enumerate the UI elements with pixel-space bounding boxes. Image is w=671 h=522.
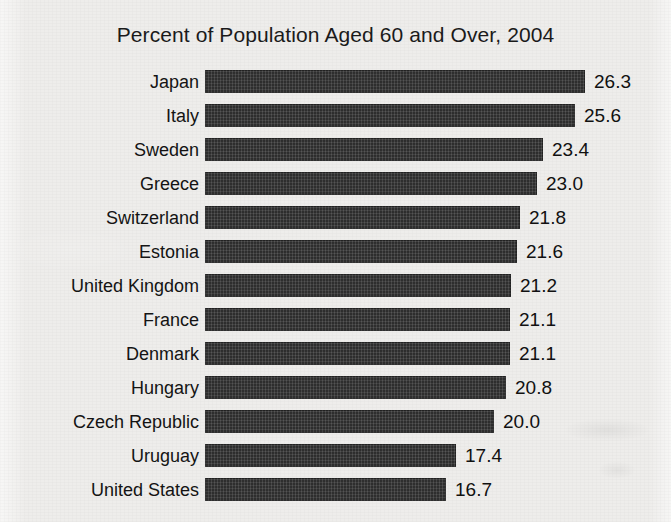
category-label: France: [143, 309, 199, 330]
bar: [205, 138, 543, 161]
bar-row: Switzerland21.8: [0, 206, 671, 229]
bar: [205, 172, 537, 195]
category-label: United Kingdom: [71, 275, 199, 296]
bar-row: Czech Republic20.0: [0, 410, 671, 433]
bar-value-label: 20.8: [515, 377, 552, 399]
bar: [205, 410, 494, 433]
chart-title: Percent of Population Aged 60 and Over, …: [0, 22, 671, 48]
bar-value-label: 25.6: [584, 105, 621, 127]
bar-value-label: 17.4: [465, 445, 502, 467]
bar-row: Greece23.0: [0, 172, 671, 195]
bar-row: Hungary20.8: [0, 376, 671, 399]
category-label: Hungary: [131, 377, 199, 398]
bar-fill: [205, 274, 511, 297]
bar-fill: [205, 342, 510, 365]
category-label: Japan: [150, 71, 199, 92]
bar-chart: Percent of Population Aged 60 and Over, …: [0, 0, 671, 522]
bar: [205, 308, 510, 331]
bar-value-label: 23.4: [552, 139, 589, 161]
bar-value-label: 23.0: [546, 173, 583, 195]
category-label: Greece: [140, 173, 199, 194]
bar-fill: [205, 138, 543, 161]
bar-value-label: 16.7: [455, 479, 492, 501]
bar-fill: [205, 240, 517, 263]
bar-row: United Kingdom21.2: [0, 274, 671, 297]
category-label: Switzerland: [106, 207, 199, 228]
bar-value-label: 26.3: [594, 71, 631, 93]
bar-value-label: 21.8: [529, 207, 566, 229]
bar-row: Japan26.3: [0, 70, 671, 93]
bar-row: Italy25.6: [0, 104, 671, 127]
category-label: United States: [91, 479, 199, 500]
category-label: Denmark: [126, 343, 199, 364]
bar-value-label: 20.0: [503, 411, 540, 433]
bar-fill: [205, 478, 446, 501]
category-label: Italy: [166, 105, 199, 126]
bar-value-label: 21.2: [520, 275, 557, 297]
bar-row: France21.1: [0, 308, 671, 331]
bar-fill: [205, 444, 456, 467]
bar-fill: [205, 376, 506, 399]
bar-row: United States16.7: [0, 478, 671, 501]
bar: [205, 70, 585, 93]
bar-value-label: 21.1: [519, 309, 556, 331]
bar-row: Uruguay17.4: [0, 444, 671, 467]
bar-fill: [205, 206, 520, 229]
bar: [205, 444, 456, 467]
bar: [205, 376, 506, 399]
bar-fill: [205, 172, 537, 195]
bar-row: Denmark21.1: [0, 342, 671, 365]
category-label: Sweden: [134, 139, 199, 160]
bar-fill: [205, 104, 575, 127]
bar-fill: [205, 410, 494, 433]
bar-row: Sweden23.4: [0, 138, 671, 161]
bar-value-label: 21.1: [519, 343, 556, 365]
category-label: Czech Republic: [73, 411, 199, 432]
bar-value-label: 21.6: [526, 241, 563, 263]
bar: [205, 240, 517, 263]
bar: [205, 104, 575, 127]
bar: [205, 342, 510, 365]
bar: [205, 274, 511, 297]
bar: [205, 478, 446, 501]
bar-fill: [205, 308, 510, 331]
plot-area: Japan26.3Italy25.6Sweden23.4Greece23.0Sw…: [0, 70, 671, 522]
bar-row: Estonia21.6: [0, 240, 671, 263]
bar-fill: [205, 70, 585, 93]
category-label: Estonia: [139, 241, 199, 262]
bar: [205, 206, 520, 229]
category-label: Uruguay: [131, 445, 199, 466]
